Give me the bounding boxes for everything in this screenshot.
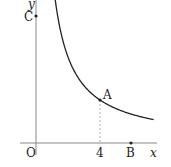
x-tick-label: 4: [96, 146, 104, 160]
point-a: [98, 98, 101, 101]
point-c-label: C: [24, 10, 33, 24]
point-a-label: A: [102, 88, 112, 102]
x-axis-label: x: [150, 146, 157, 160]
point-c: [34, 14, 37, 17]
origin-label: O: [26, 146, 36, 160]
point-b: [129, 141, 132, 144]
point-b-label: B: [126, 146, 135, 160]
figure: y C A O 4 B x: [0, 0, 171, 167]
